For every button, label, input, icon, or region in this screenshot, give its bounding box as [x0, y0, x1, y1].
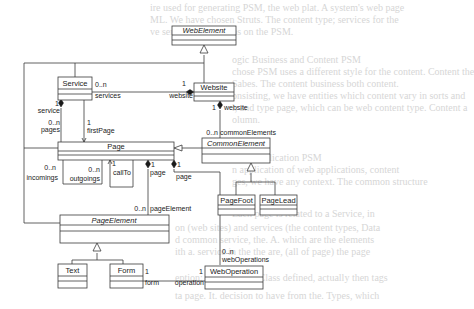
role-label: services	[95, 92, 121, 99]
class-name: Text	[66, 266, 81, 275]
class-name: Page	[107, 142, 125, 151]
composition-diamond-icon	[172, 160, 177, 168]
class-name: Form	[118, 266, 136, 275]
multiplicity-label: 1	[145, 268, 149, 275]
assoc-service-firstpage	[82, 100, 86, 142]
role-label: callTo	[113, 169, 131, 176]
role-label: page	[150, 169, 166, 177]
class-text[interactable]: Text	[58, 264, 87, 288]
multiplicity-label: 0..n	[222, 248, 234, 255]
multiplicity-label: 1	[182, 80, 186, 87]
multiplicity-label: 0..n	[44, 164, 56, 171]
role-label: website	[168, 92, 193, 99]
class-name: Service	[62, 79, 87, 88]
class-pagefoot[interactable]: PageFoot	[218, 195, 255, 215]
class-name: WebOperation	[210, 267, 258, 276]
generalization-commonelement-page	[174, 145, 202, 151]
generalization-arrow-icon	[247, 163, 255, 171]
multiplicity-label: 0..n	[134, 205, 146, 212]
multiplicity-label: 0..n	[88, 166, 100, 173]
role-label: website	[223, 104, 248, 111]
multiplicity-label: 0..n	[206, 129, 218, 136]
role-label: incomings	[26, 174, 58, 182]
role-label: operation	[175, 279, 204, 287]
role-label: page	[176, 173, 192, 181]
generalization-to-webelement	[24, 45, 208, 223]
generalization-arrow-icon	[174, 145, 182, 151]
class-form[interactable]: Form	[110, 264, 143, 288]
multiplicity-label: 1	[87, 119, 91, 126]
class-name: CommonElement	[207, 139, 266, 148]
role-label: firstPage	[87, 127, 115, 135]
generalization-to-commonelement	[236, 163, 275, 195]
class-name: PageFoot	[220, 196, 253, 205]
class-website[interactable]: Website	[194, 83, 234, 101]
role-label: webOperations	[221, 256, 270, 264]
role-label: pages	[41, 126, 61, 134]
role-label: pageElement	[150, 205, 191, 213]
class-name: PageElement	[91, 216, 137, 225]
role-label: outgoings	[70, 175, 101, 183]
class-page[interactable]: Page	[58, 142, 174, 160]
multiplicity-label: 0..n	[48, 119, 60, 126]
multiplicity-label: 1	[55, 100, 59, 107]
class-name: WebElement	[183, 26, 227, 35]
composition-diamond-icon	[218, 101, 223, 109]
class-name: Website	[201, 83, 228, 92]
generalization-arrow-icon	[93, 243, 101, 251]
multiplicity-label: 1	[199, 268, 203, 275]
class-pageelement[interactable]: PageElement	[60, 215, 169, 243]
class-pagelead[interactable]: PageLead	[260, 195, 297, 215]
class-webelement[interactable]: WebElement	[172, 26, 236, 46]
multiplicity-label: 1	[151, 161, 155, 168]
class-name: PageLead	[261, 196, 295, 205]
multiplicity-label: 1	[212, 104, 216, 111]
multiplicity-label: 0..n	[95, 81, 107, 88]
composition-diamond-icon	[146, 160, 151, 168]
multiplicity-label: 1	[177, 161, 181, 168]
role-label: commonElements	[220, 129, 277, 136]
class-commonelement[interactable]: CommonElement	[202, 138, 270, 163]
multiplicity-label: 1	[112, 160, 116, 167]
generalization-to-pageelement	[72, 243, 123, 264]
class-weboperation[interactable]: WebOperation	[205, 266, 263, 289]
role-label: service	[38, 107, 60, 114]
role-label: form	[145, 279, 159, 286]
class-service[interactable]: Service	[58, 77, 92, 100]
generalization-arrow-icon	[200, 45, 208, 53]
